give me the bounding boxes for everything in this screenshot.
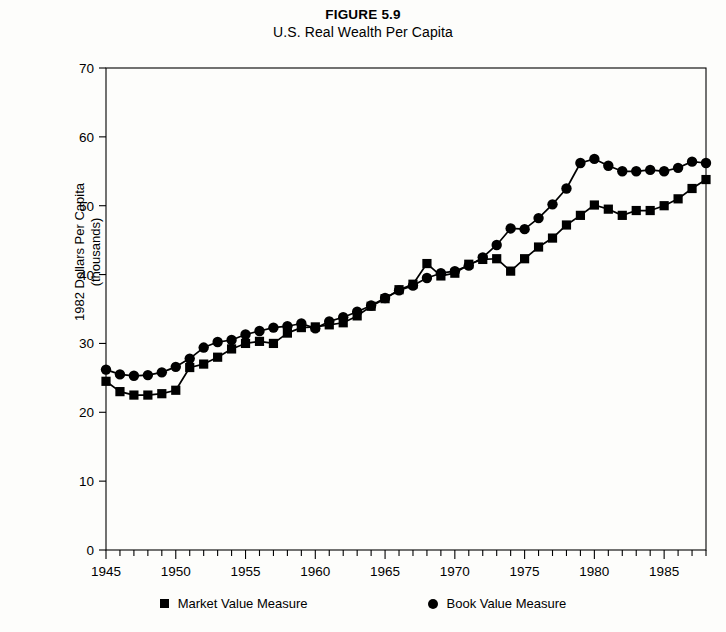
data-point-circle: [240, 329, 250, 339]
square-marker-icon: [160, 599, 169, 608]
x-tick-label: 1965: [370, 564, 400, 579]
data-point-square: [171, 386, 180, 395]
figure-subtitle: U.S. Real Wealth Per Capita: [0, 23, 726, 41]
data-point-square: [548, 233, 557, 242]
chart-plot: 0102030405060701945195019551960196519701…: [0, 0, 726, 600]
data-point-square: [520, 254, 529, 263]
data-point-circle: [115, 369, 125, 379]
data-point-circle: [659, 166, 669, 176]
data-point-square: [604, 205, 613, 214]
data-point-circle: [268, 322, 278, 332]
data-point-circle: [296, 318, 306, 328]
legend-entry-book: Book Value Measure: [428, 596, 567, 611]
data-point-square: [115, 387, 124, 396]
series-line-book: [106, 159, 706, 376]
data-point-square: [673, 194, 682, 203]
data-point-square: [185, 363, 194, 372]
data-point-square: [255, 337, 264, 346]
x-tick-label: 1950: [161, 564, 191, 579]
data-point-circle: [198, 342, 208, 352]
x-tick-label: 1980: [579, 564, 609, 579]
data-point-circle: [673, 163, 683, 173]
x-tick-label: 1960: [300, 564, 330, 579]
x-tick-label: 1945: [91, 564, 121, 579]
data-point-square: [562, 220, 571, 229]
data-point-circle: [575, 158, 585, 168]
data-point-circle: [645, 165, 655, 175]
data-point-circle: [380, 293, 390, 303]
data-point-circle: [185, 353, 195, 363]
data-point-circle: [310, 323, 320, 333]
data-point-circle: [143, 370, 153, 380]
data-point-circle: [394, 285, 404, 295]
data-point-square: [199, 359, 208, 368]
figure-number: FIGURE 5.9: [0, 6, 726, 23]
data-point-circle: [254, 326, 264, 336]
data-point-square: [143, 390, 152, 399]
y-axis-label-line2: (thousands): [88, 102, 104, 402]
data-point-circle: [561, 183, 571, 193]
data-point-square: [422, 259, 431, 268]
y-tick-label: 20: [79, 405, 94, 420]
data-point-circle: [617, 166, 627, 176]
data-point-circle: [603, 161, 613, 171]
y-tick-label: 70: [79, 61, 94, 76]
figure-container: FIGURE 5.9 U.S. Real Wealth Per Capita 1…: [0, 0, 726, 632]
data-point-square: [157, 389, 166, 398]
data-point-circle: [547, 199, 557, 209]
data-point-square: [590, 200, 599, 209]
data-point-circle: [212, 337, 222, 347]
data-point-circle: [491, 240, 501, 250]
data-point-square: [632, 206, 641, 215]
data-point-circle: [366, 300, 376, 310]
data-point-circle: [505, 223, 515, 233]
data-point-square: [660, 201, 669, 210]
data-point-circle: [282, 321, 292, 331]
data-point-square: [576, 211, 585, 220]
data-point-square: [618, 211, 627, 220]
data-point-circle: [157, 367, 167, 377]
data-point-circle: [324, 316, 334, 326]
data-point-circle: [464, 260, 474, 270]
x-tick-label: 1970: [440, 564, 470, 579]
data-point-circle: [422, 273, 432, 283]
data-point-square: [687, 184, 696, 193]
data-point-circle: [687, 156, 697, 166]
data-point-circle: [171, 362, 181, 372]
legend-label-market: Market Value Measure: [178, 596, 308, 611]
y-axis-label-line1: 1982 Dollars Per Capita: [72, 102, 88, 402]
data-point-square: [506, 267, 515, 276]
data-point-square: [213, 353, 222, 362]
figure-title-block: FIGURE 5.9 U.S. Real Wealth Per Capita: [0, 6, 726, 41]
data-point-square: [646, 206, 655, 215]
axes-group: 0102030405060701945195019551960196519701…: [79, 61, 706, 579]
data-point-circle: [589, 154, 599, 164]
chart-legend: Market Value Measure Book Value Measure: [0, 596, 726, 611]
data-point-circle: [226, 335, 236, 345]
x-tick-label: 1975: [510, 564, 540, 579]
legend-entry-market: Market Value Measure: [160, 596, 308, 611]
x-tick-label: 1955: [231, 564, 261, 579]
y-tick-label: 10: [79, 474, 94, 489]
data-point-circle: [519, 224, 529, 234]
data-point-circle: [533, 213, 543, 223]
data-point-square: [269, 339, 278, 348]
data-point-circle: [478, 252, 488, 262]
data-point-circle: [352, 307, 362, 317]
data-point-circle: [436, 268, 446, 278]
plot-frame: [106, 68, 706, 550]
circle-marker-icon: [428, 599, 438, 609]
data-point-circle: [450, 266, 460, 276]
data-point-circle: [338, 312, 348, 322]
data-point-square: [129, 390, 138, 399]
data-point-circle: [129, 371, 139, 381]
series-group: [101, 154, 711, 400]
data-point-circle: [701, 158, 711, 168]
data-point-square: [701, 175, 710, 184]
data-point-square: [241, 339, 250, 348]
legend-label-book: Book Value Measure: [447, 596, 567, 611]
data-point-circle: [408, 280, 418, 290]
data-point-circle: [631, 166, 641, 176]
y-axis-label: 1982 Dollars Per Capita (thousands): [72, 102, 104, 402]
x-tick-label: 1985: [649, 564, 679, 579]
